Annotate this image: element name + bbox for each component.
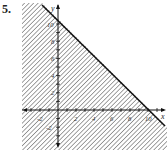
shaded-region <box>22 3 167 150</box>
x-tick-label: 10 <box>145 115 152 122</box>
y-tick-label: -2 <box>46 124 52 131</box>
x-axis-label: x <box>160 112 165 121</box>
inequality-graph: -2 2 4 6 8 10 10 8 6 4 2 -2 x y <box>0 0 167 150</box>
y-axis-label: y <box>50 4 55 13</box>
y-tick-label: 10 <box>47 21 54 28</box>
x-tick-label: -2 <box>37 115 43 122</box>
